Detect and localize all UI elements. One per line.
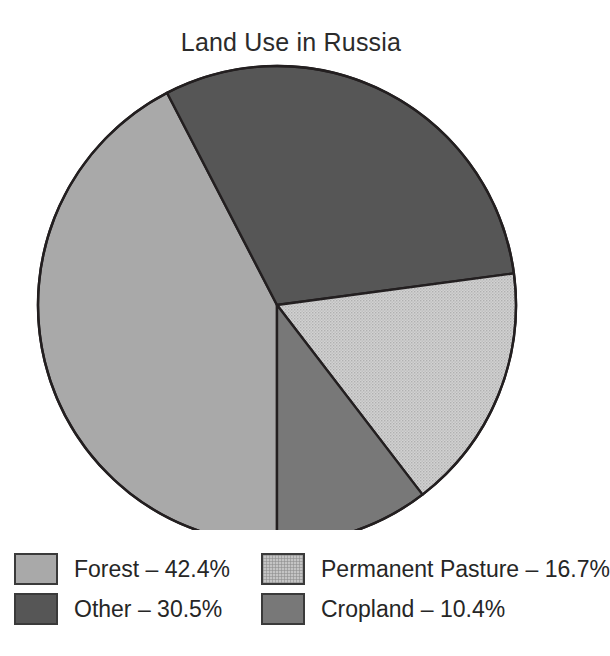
legend-item-other[interactable]: Other – 30.5% (14, 592, 222, 626)
legend-label-forest: Forest – 42.4% (74, 558, 230, 581)
pie-svg: Forest – 42.4%Other – 30.5%Permanent Pas… (0, 0, 582, 530)
legend-label-permanent-pasture: Permanent Pasture – 16.7% (321, 558, 610, 581)
legend-label-other: Other – 30.5% (74, 598, 222, 621)
legend-swatch-forest (14, 553, 58, 585)
legend-label-cropland: Cropland – 10.4% (321, 598, 505, 621)
legend-item-forest[interactable]: Forest – 42.4% (14, 552, 230, 586)
chart-legend: Forest – 42.4% Permanent Pasture – 16.7%… (0, 548, 582, 644)
legend-swatch-cropland (261, 593, 305, 625)
pie-plot-area: Forest – 42.4%Other – 30.5%Permanent Pas… (0, 0, 582, 530)
legend-item-cropland[interactable]: Cropland – 10.4% (261, 592, 505, 626)
legend-swatch-permanent-pasture (261, 553, 305, 585)
legend-item-permanent-pasture[interactable]: Permanent Pasture – 16.7% (261, 552, 610, 586)
legend-swatch-other (14, 593, 58, 625)
